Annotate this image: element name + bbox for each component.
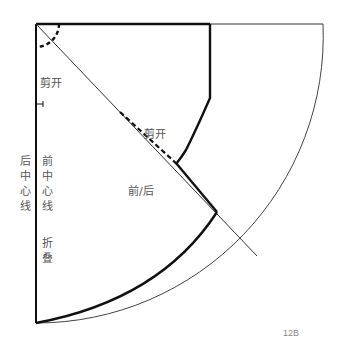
- front-back-label: 前/后: [128, 185, 154, 199]
- cut-label-top: 剪开: [40, 77, 62, 91]
- figure-number: 12B: [283, 328, 299, 338]
- side-seam-diagonal: [176, 163, 217, 212]
- front-panel-edge: [176, 24, 210, 164]
- back-center-line-label: 后中心线: [19, 154, 31, 214]
- front-center-line-label: 前中心线: [41, 154, 53, 214]
- cut-label-middle: 剪开: [144, 128, 166, 142]
- fold-label: 折叠: [41, 236, 53, 266]
- hem-curve: [36, 212, 217, 323]
